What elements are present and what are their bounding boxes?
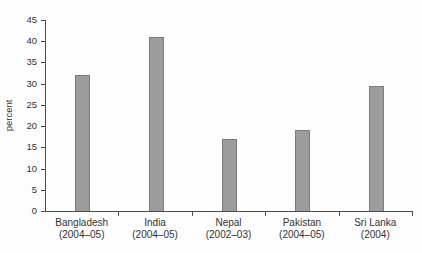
x-tick-mark: [118, 212, 119, 216]
y-tick-mark: [41, 190, 45, 191]
x-label-nepal: Nepal(2002–03): [192, 217, 265, 240]
category-period: (2002–03): [192, 229, 265, 241]
plot-area: [45, 20, 413, 212]
x-label-pakistan: Pakistan(2004–05): [265, 217, 338, 240]
category-name: India: [118, 217, 191, 229]
x-tick-mark: [265, 212, 266, 216]
y-tick-label: 40: [0, 35, 37, 47]
y-tick-mark: [41, 147, 45, 148]
y-tick-label: 0: [0, 205, 37, 217]
y-tick-mark: [41, 105, 45, 106]
bar-chart-figure: percent 051015202530354045Bangladesh(200…: [0, 0, 422, 253]
y-axis-title: percent: [3, 86, 14, 146]
category-period: (2004–05): [265, 229, 338, 241]
y-tick-label: 20: [0, 120, 37, 132]
category-name: Sri Lanka: [339, 217, 412, 229]
category-name: Nepal: [192, 217, 265, 229]
x-label-bangladesh: Bangladesh(2004–05): [45, 217, 118, 240]
y-tick-label: 25: [0, 99, 37, 111]
bar-bangladesh: [75, 75, 90, 211]
category-period: (2004): [339, 229, 412, 241]
y-tick-label: 45: [0, 14, 37, 26]
y-tick-label: 5: [0, 184, 37, 196]
category-name: Bangladesh: [45, 217, 118, 229]
category-period: (2004–05): [45, 229, 118, 241]
y-tick-mark: [41, 20, 45, 21]
y-tick-label: 35: [0, 56, 37, 68]
bar-india: [149, 37, 164, 211]
x-label-sri-lanka: Sri Lanka(2004): [339, 217, 412, 240]
bar-nepal: [222, 139, 237, 211]
y-tick-mark: [41, 211, 45, 212]
bar-sri-lanka: [369, 86, 384, 211]
y-tick-mark: [41, 169, 45, 170]
y-tick-label: 30: [0, 78, 37, 90]
bar-pakistan: [295, 130, 310, 211]
y-tick-mark: [41, 84, 45, 85]
y-tick-mark: [41, 41, 45, 42]
y-tick-label: 10: [0, 163, 37, 175]
x-tick-mark: [412, 212, 413, 216]
x-tick-mark: [192, 212, 193, 216]
y-tick-mark: [41, 126, 45, 127]
category-name: Pakistan: [265, 217, 338, 229]
category-period: (2004–05): [118, 229, 191, 241]
x-tick-mark: [339, 212, 340, 216]
y-tick-mark: [41, 62, 45, 63]
x-label-india: India(2004–05): [118, 217, 191, 240]
y-tick-label: 15: [0, 141, 37, 153]
